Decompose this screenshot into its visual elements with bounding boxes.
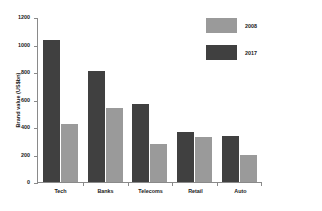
legend-item-2008: 2008 (206, 18, 318, 33)
bar-retail-2008 (195, 137, 212, 182)
x-tick-mark (172, 182, 173, 186)
legend-item-2017: 2017 (206, 45, 318, 60)
y-tick-label: 200 (0, 152, 30, 158)
y-tick-label: 400 (0, 124, 30, 130)
y-tick-label: 1000 (0, 42, 30, 48)
x-tick-mark (217, 182, 218, 186)
x-label-auto: Auto (218, 188, 263, 194)
legend-swatch-2008 (206, 18, 237, 33)
x-label-tech: Tech (38, 188, 83, 194)
bar-tech-2008 (61, 124, 78, 182)
bar-group (128, 18, 173, 182)
bar-tech-2017 (43, 40, 60, 182)
bar-chart: Brand value (US$bn) 02004006008001000120… (0, 0, 322, 211)
y-tick-label: 0 (0, 179, 30, 185)
bar-telecoms-2008 (150, 144, 167, 182)
legend-swatch-2017 (206, 45, 237, 60)
x-tick-mark (128, 182, 129, 186)
bar-auto-2008 (240, 155, 257, 183)
bar-banks-2017 (88, 71, 105, 182)
bar-group (83, 18, 128, 182)
bar-telecoms-2017 (132, 104, 149, 182)
x-label-retail: Retail (173, 188, 218, 194)
bar-auto-2017 (222, 136, 239, 182)
legend-label-2008: 2008 (245, 23, 257, 29)
legend-label-2017: 2017 (245, 50, 257, 56)
x-label-banks: Banks (83, 188, 128, 194)
x-tick-mark (261, 182, 262, 186)
x-tick-mark (83, 182, 84, 186)
bar-retail-2017 (177, 132, 194, 182)
y-tick-label: 1200 (0, 14, 30, 20)
bar-banks-2008 (106, 108, 123, 182)
bar-group (38, 18, 83, 182)
y-tick-mark (34, 183, 38, 184)
x-label-telecoms: Telecoms (128, 188, 173, 194)
chart-legend: 20082017 (206, 18, 318, 72)
x-axis-labels: TechBanksTelecomsRetailAuto (38, 188, 263, 194)
x-axis-line (37, 182, 262, 183)
y-tick-label: 800 (0, 69, 30, 75)
y-tick-label: 600 (0, 97, 30, 103)
